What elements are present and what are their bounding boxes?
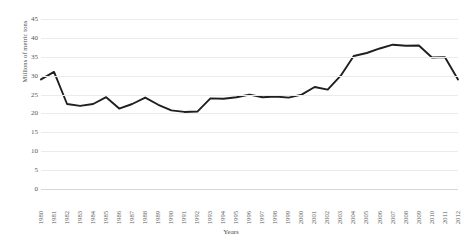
y-axis-tick-label: 35 — [14, 53, 38, 60]
x-axis-tick-label: 1995 — [233, 211, 240, 224]
x-axis-tick-label: 1991 — [181, 211, 188, 224]
gridline — [41, 151, 458, 152]
y-axis-tick-label: 15 — [14, 129, 38, 136]
x-axis-tick-label: 1981 — [51, 211, 58, 224]
x-axis-tick-label: 2010 — [429, 211, 436, 224]
x-axis-tick-label: 1980 — [38, 211, 45, 224]
x-axis-tick-label: 2005 — [363, 211, 370, 224]
x-axis-tick-label: 2009 — [416, 211, 423, 224]
y-axis-tick-labels: 051015202530354045 — [14, 0, 38, 243]
gridline — [41, 76, 458, 77]
gridline — [41, 170, 458, 171]
x-axis-tick-label: 2008 — [403, 211, 410, 224]
x-axis-tick-label: 1987 — [129, 211, 136, 224]
x-axis-tick-label: 1989 — [155, 211, 162, 224]
plot-area — [41, 19, 458, 189]
x-axis-tick-label: 1993 — [207, 211, 214, 224]
y-axis-tick-label: 0 — [14, 186, 38, 193]
x-axis-tick-label: 1999 — [285, 211, 292, 224]
x-axis-tick-label: 2006 — [377, 211, 384, 224]
gridline — [41, 19, 458, 20]
x-axis-tick-label: 1988 — [142, 211, 149, 224]
x-axis-tick-label: 1985 — [103, 211, 110, 224]
x-axis-tick-label: 1992 — [194, 211, 201, 224]
x-axis-tick-label: 2011 — [442, 211, 449, 224]
x-axis-tick-label: 1982 — [64, 211, 71, 224]
gridline — [41, 132, 458, 133]
x-axis-tick-label: 2003 — [337, 211, 344, 224]
gridline — [41, 38, 458, 39]
x-axis-tick-label: 1990 — [168, 211, 175, 224]
y-axis-tick-label: 45 — [14, 16, 38, 23]
y-axis-tick-label: 10 — [14, 148, 38, 155]
x-axis-tick-label: 1998 — [272, 211, 279, 224]
x-axis-tick-label: 1983 — [77, 211, 84, 224]
x-axis-tick-label: 2001 — [311, 211, 318, 224]
x-axis-tick-label: 1994 — [220, 211, 227, 224]
x-axis-tick-labels: 1980198119821983198419851986198719881989… — [41, 190, 458, 224]
x-axis-tick-label: 1986 — [116, 211, 123, 224]
x-axis-tick-label: 1997 — [259, 211, 266, 224]
y-axis-tick-label: 25 — [14, 91, 38, 98]
x-axis-title: Years — [0, 228, 462, 236]
series-line — [41, 19, 458, 189]
x-axis-tick-label: 2002 — [324, 211, 331, 224]
x-axis-tick-label: 2000 — [298, 211, 305, 224]
y-axis-tick-label: 5 — [14, 167, 38, 174]
gridline — [41, 95, 458, 96]
gridline — [41, 57, 458, 58]
line-chart: Millions of metric tons 0510152025303540… — [0, 0, 462, 243]
y-axis-tick-label: 30 — [14, 72, 38, 79]
x-axis-tick-label: 2007 — [390, 211, 397, 224]
gridline — [41, 113, 458, 114]
y-axis-tick-label: 40 — [14, 34, 38, 41]
x-axis-tick-label: 2004 — [350, 211, 357, 224]
x-axis-tick-label: 2012 — [455, 211, 462, 224]
x-axis-tick-label: 1996 — [246, 211, 253, 224]
y-axis-tick-label: 20 — [14, 110, 38, 117]
data-line — [41, 45, 458, 112]
x-axis-tick-label: 1984 — [90, 211, 97, 224]
